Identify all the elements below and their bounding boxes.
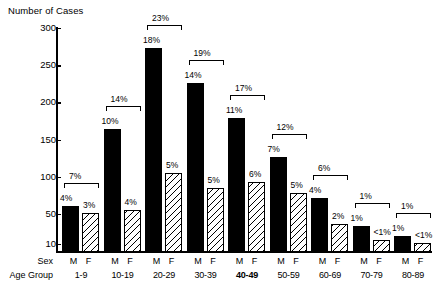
bar-label-male-percent: 1%	[351, 214, 363, 223]
bar-male	[311, 198, 328, 252]
bar-label-female-percent: 5%	[291, 181, 303, 190]
bar-label-total-percent: 1%	[401, 202, 413, 211]
bar-label-total-percent: 23%	[152, 14, 169, 23]
bar-group: 4%2%6%	[310, 20, 352, 252]
bar-male	[228, 118, 245, 252]
x-sex-cell: MF	[60, 256, 102, 266]
bar-group: 11%6%17%	[227, 20, 269, 252]
bar-label-female-percent: 4%	[125, 198, 137, 207]
total-bracket	[189, 60, 224, 65]
x-sex-label: M	[191, 256, 206, 266]
bar-female	[82, 213, 99, 252]
x-sex-label: F	[123, 256, 138, 266]
bar-female	[124, 210, 141, 252]
x-sex-label: M	[398, 256, 413, 266]
total-bracket	[396, 213, 431, 218]
x-sex-label: M	[315, 256, 330, 266]
bar-label-female-percent: <1%	[415, 231, 432, 240]
x-sex-label: F	[164, 256, 179, 266]
x-age-group-label: 70-79	[349, 270, 395, 280]
bar-male	[394, 236, 411, 252]
plot-area: 4%3%7%10%4%14%18%5%23%14%5%19%11%6%17%7%…	[57, 20, 432, 252]
bar-label-total-percent: 19%	[194, 49, 211, 58]
bar-female	[290, 193, 307, 252]
bar-group: 14%5%19%	[186, 20, 228, 252]
bar-label-total-percent: 7%	[69, 172, 81, 181]
bar-label-male-percent: 10%	[102, 117, 119, 126]
bar-chart: Number of Cases 1050100150200250300 4%3%…	[0, 0, 440, 285]
bar-female	[331, 224, 348, 252]
total-bracket	[230, 95, 265, 100]
bar-group: 10%4%14%	[103, 20, 145, 252]
total-bracket	[64, 183, 99, 188]
y-tick-label-wrap: 100	[26, 172, 56, 182]
y-tick-label: 150	[32, 135, 56, 145]
bar-male	[104, 129, 121, 252]
bar-label-total-percent: 12%	[277, 123, 294, 132]
y-tick-label: 10	[32, 239, 56, 249]
bar-female	[373, 240, 390, 252]
bar-label-female-percent: <1%	[374, 228, 391, 237]
bar-group: 7%5%12%	[269, 20, 311, 252]
x-sex-label: F	[81, 256, 96, 266]
x-age-group-label: 40-49	[224, 270, 270, 280]
y-tick-label: 300	[32, 23, 56, 33]
total-bracket	[313, 175, 348, 180]
x-age-group-label: 30-39	[183, 270, 229, 280]
bar-label-total-percent: 14%	[111, 95, 128, 104]
bar-female	[414, 243, 431, 252]
bar-male	[270, 157, 287, 252]
total-bracket	[106, 106, 141, 111]
x-age-group-label: 20-29	[141, 270, 187, 280]
total-bracket	[147, 25, 182, 30]
bar-group: 4%3%7%	[61, 20, 103, 252]
bar-label-male-percent: 18%	[143, 36, 160, 45]
x-sex-cell: MF	[309, 256, 351, 266]
y-tick-label-wrap: 150	[26, 135, 56, 145]
x-sex-cell: MF	[392, 256, 434, 266]
bar-label-total-percent: 6%	[318, 164, 330, 173]
bar-female	[165, 173, 182, 252]
x-sex-cell: MF	[351, 256, 393, 266]
bar-group: 1%<1%1%	[393, 20, 435, 252]
bar-male	[353, 226, 370, 252]
x-age-group-label: 60-69	[307, 270, 353, 280]
x-sex-label: M	[149, 256, 164, 266]
y-axis-title: Number of Cases	[8, 5, 83, 16]
bar-male	[187, 83, 204, 252]
x-sex-cell: MF	[226, 256, 268, 266]
bar-label-female-percent: 5%	[166, 161, 178, 170]
bar-label-male-percent: 7%	[268, 145, 280, 154]
bar-male	[145, 48, 162, 252]
y-tick-label: 200	[32, 97, 56, 107]
bar-label-male-percent: 14%	[185, 71, 202, 80]
x-age-group-label: 10-19	[100, 270, 146, 280]
x-age-group-label: 80-89	[390, 270, 436, 280]
x-age-group-label: 50-59	[266, 270, 312, 280]
bar-label-female-percent: 2%	[332, 212, 344, 221]
y-tick-label-wrap: 50	[26, 209, 56, 219]
x-age-group-label: 1-9	[58, 270, 104, 280]
x-sex-cell: MF	[102, 256, 144, 266]
x-sex-label: F	[330, 256, 345, 266]
total-bracket	[272, 134, 307, 139]
bar-label-male-percent: 4%	[309, 186, 321, 195]
bar-male	[62, 206, 79, 252]
x-sex-cell: MF	[185, 256, 227, 266]
x-sex-label: M	[66, 256, 81, 266]
x-sex-label: M	[108, 256, 123, 266]
total-bracket	[355, 203, 390, 208]
y-tick-label-wrap: 300	[26, 23, 56, 33]
bar-label-total-percent: 17%	[235, 84, 252, 93]
x-axis-row-label-age-group: Age Group	[1, 270, 53, 280]
bar-label-female-percent: 6%	[249, 170, 261, 179]
x-sex-label: F	[372, 256, 387, 266]
bar-group: 18%5%23%	[144, 20, 186, 252]
x-sex-label: M	[232, 256, 247, 266]
bar-female	[248, 182, 265, 252]
y-tick-label-wrap: 250	[26, 60, 56, 70]
x-axis-row-label-sex: Sex	[5, 256, 53, 266]
bar-label-female-percent: 3%	[83, 201, 95, 210]
y-tick-label: 100	[32, 172, 56, 182]
x-sex-label: F	[413, 256, 428, 266]
